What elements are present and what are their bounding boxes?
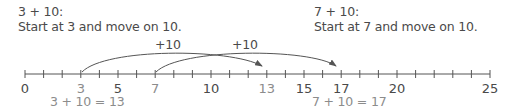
right-result: 7 + 10 = 17 bbox=[312, 94, 386, 109]
tick-label-25: 25 bbox=[482, 81, 499, 96]
tick-label-7: 7 bbox=[151, 81, 159, 96]
tick-label-0: 0 bbox=[21, 81, 29, 96]
right-jump-arc bbox=[156, 53, 336, 72]
number-line bbox=[25, 70, 490, 78]
left-jump-arc bbox=[82, 53, 262, 72]
tick-label-20: 20 bbox=[389, 81, 406, 96]
tick-label-10: 10 bbox=[203, 81, 220, 96]
tick-label-13: 13 bbox=[259, 81, 276, 96]
left-result: 3 + 10 = 13 bbox=[50, 94, 124, 109]
tick-label-15: 15 bbox=[296, 81, 313, 96]
